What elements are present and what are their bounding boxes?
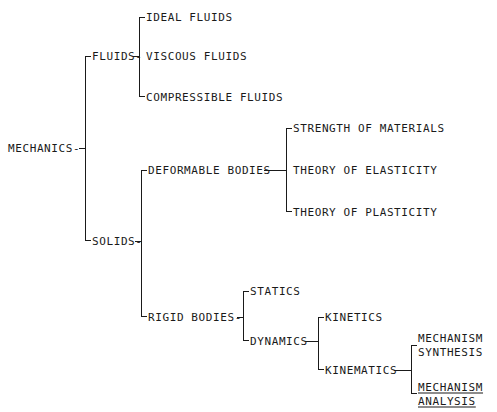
bracket-rigid-bodies (243, 291, 249, 341)
node-rigid-bodies: RIGID BODIES- (148, 311, 242, 324)
tick-deformable-join (280, 170, 287, 171)
mechanism-analysis-line2: ANALYSIS (418, 394, 476, 407)
node-mechanism-analysis: MECHANISMANALYSIS (418, 381, 483, 408)
mechanism-synthesis-line1: MECHANISM (418, 332, 483, 345)
bracket-fluids (139, 17, 145, 97)
node-deformable-bodies: DEFORMABLE BODIES (148, 164, 271, 177)
mechanism-analysis-line1: MECHANISM (418, 381, 483, 394)
node-mechanics: MECHANICS- (8, 142, 80, 155)
tick-rigid-bodies-join (237, 317, 244, 318)
node-theory-of-elasticity: THEORY OF ELASTICITY (293, 164, 437, 177)
tick-mechanics-join (79, 148, 86, 149)
tick-fluids-join (133, 56, 140, 57)
tick-kinematics-join (405, 370, 412, 371)
node-compressible-fluids: COMPRESSIBLE FLUIDS (146, 91, 283, 104)
node-theory-of-plasticity: THEORY OF PLASTICITY (293, 206, 437, 219)
bracket-solids (141, 170, 147, 317)
tick-solids-join (135, 241, 142, 242)
node-viscous-fluids: VISCOUS FLUIDS (146, 50, 247, 63)
node-mechanism-synthesis: MECHANISMSYNTHESIS (418, 332, 483, 359)
node-strength-of-materials: STRENGTH OF MATERIALS (293, 122, 445, 135)
node-dynamics: DYNAMICS (250, 335, 308, 348)
node-statics: STATICS (250, 285, 301, 298)
node-kinematics: KINEMATICS (325, 364, 397, 377)
tick-dynamics-join (312, 341, 319, 342)
node-ideal-fluids: IDEAL FLUIDS (146, 11, 233, 24)
mechanism-synthesis-line2: SYNTHESIS (418, 345, 483, 358)
node-kinetics: KINETICS (325, 311, 383, 324)
bracket-dynamics (318, 317, 324, 370)
mechanics-tree-diagram: MECHANICS- FLUIDS- IDEAL FLUIDS VISCOUS … (0, 0, 497, 412)
